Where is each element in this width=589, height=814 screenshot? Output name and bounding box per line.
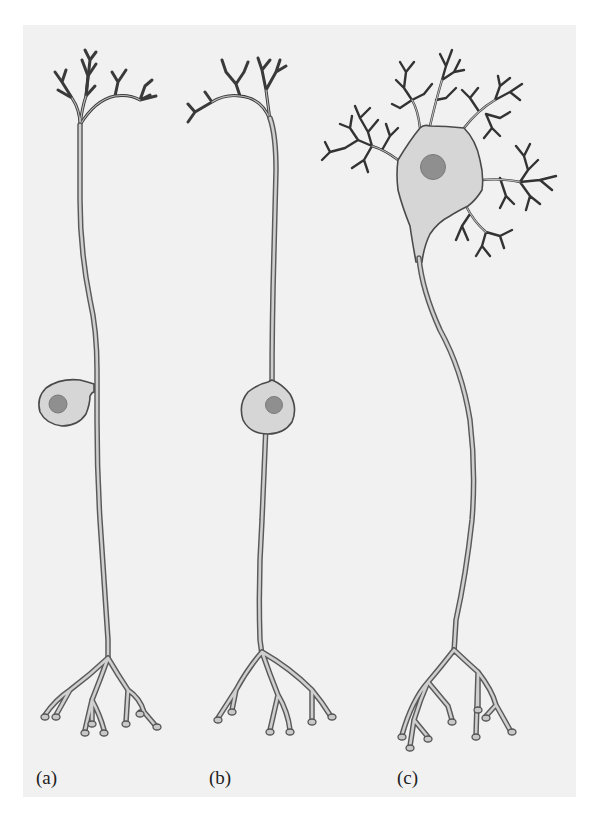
panel-label-c: (c) bbox=[397, 767, 418, 789]
neuron-c-nucleus bbox=[421, 155, 446, 180]
neuron-a-axon-terminals bbox=[41, 658, 161, 736]
neuron-diagram bbox=[0, 0, 589, 814]
neuron-a-dendrites bbox=[55, 50, 156, 125]
neuron-a-unipolar bbox=[39, 50, 161, 736]
neuron-b-bipolar bbox=[188, 58, 336, 735]
neuron-c-axon-terminals bbox=[398, 650, 516, 751]
neuron-a-nucleus bbox=[49, 395, 67, 413]
neuron-b-nucleus bbox=[266, 397, 283, 414]
neuron-c-soma bbox=[397, 125, 483, 262]
neuron-b-dendrites bbox=[188, 58, 286, 122]
neuron-c-multipolar bbox=[322, 50, 556, 751]
neuron-b-axon-terminals bbox=[214, 652, 336, 735]
panel-label-a: (a) bbox=[36, 767, 57, 789]
panel-label-b: (b) bbox=[209, 767, 231, 789]
